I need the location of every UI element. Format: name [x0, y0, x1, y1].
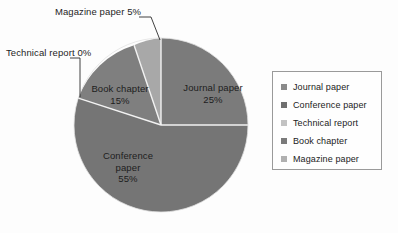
- chart-legend: Journal paper Conference paper Technical…: [272, 71, 382, 170]
- legend-item-conference-paper[interactable]: Conference paper: [281, 96, 381, 114]
- slice-label-journal-paper: Journal paper 25%: [170, 82, 256, 105]
- legend-item-journal-paper[interactable]: Journal paper: [281, 78, 381, 96]
- slice-label-journal-paper-name: Journal paper: [183, 82, 242, 93]
- legend-item-book-chapter[interactable]: Book chapter: [281, 132, 381, 150]
- legend-swatch-journal-paper: [281, 84, 287, 90]
- slice-label-conference-paper-value: 55%: [85, 173, 171, 185]
- slice-label-journal-paper-value: 25%: [170, 94, 256, 106]
- legend-label-book-chapter: Book chapter: [293, 136, 347, 146]
- callout-label-magazine-paper-value: 5%: [127, 6, 141, 17]
- slice-label-conference-paper-name1: Conference: [103, 150, 153, 161]
- legend-item-technical-report[interactable]: Technical report: [281, 114, 381, 132]
- slice-label-book-chapter-name: Book chapter: [91, 83, 148, 94]
- slice-label-conference-paper-name2: paper: [85, 162, 171, 174]
- callout-label-technical-report-name1: Technical: [6, 47, 47, 58]
- legend-label-conference-paper: Conference paper: [293, 100, 367, 110]
- callout-label-magazine-paper: Magazine paper 5%: [52, 6, 144, 18]
- callout-label-technical-report-value: 0%: [77, 47, 91, 58]
- callout-label-magazine-paper-name: Magazine paper: [55, 6, 125, 17]
- slice-label-book-chapter: Book chapter 15%: [78, 83, 162, 106]
- legend-label-magazine-paper: Magazine paper: [293, 154, 359, 164]
- legend-label-technical-report: Technical report: [293, 118, 358, 128]
- legend-swatch-conference-paper: [281, 102, 287, 108]
- legend-item-magazine-paper[interactable]: Magazine paper: [281, 150, 381, 168]
- legend-swatch-magazine-paper: [281, 156, 287, 162]
- pie-chart-figure: Journal paper 25% Conference paper 55% B…: [0, 0, 398, 233]
- slice-label-conference-paper: Conference paper 55%: [85, 150, 171, 185]
- slice-label-book-chapter-value: 15%: [78, 95, 162, 107]
- callout-label-technical-report: Technical report 0%: [6, 47, 76, 59]
- legend-swatch-technical-report: [281, 120, 287, 126]
- leader-line-magazine-paper: [139, 17, 160, 40]
- legend-label-journal-paper: Journal paper: [293, 82, 349, 92]
- callout-label-technical-report-name2: report: [49, 47, 74, 58]
- legend-swatch-book-chapter: [281, 138, 287, 144]
